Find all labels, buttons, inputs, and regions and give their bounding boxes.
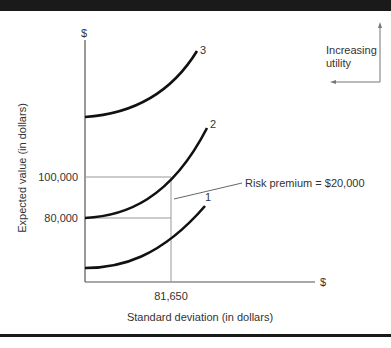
bottom-frame-line [0,334,391,337]
x-axis-unit: $ [320,276,326,288]
increasing-utility-label-line1: Increasing [326,44,377,56]
y-tick-100000: 100,000 [38,171,78,183]
curve-2-label: 2 [210,118,216,130]
up-arrowhead-icon [378,22,382,28]
curve-1-label: 1 [205,191,211,203]
y-tick-80000: 80,000 [44,212,78,224]
increasing-utility-label-line2: utility [326,57,352,69]
curve-3-label: 3 [200,44,206,56]
y-axis-unit: $ [81,27,87,39]
risk-premium-annotation: Risk premium = $20,000 [245,177,365,189]
x-axis-title: Standard deviation (in dollars) [127,311,273,323]
x-tick-81650: 81,650 [154,290,188,302]
indifference-curve-3 [85,51,197,117]
indifference-curve-diagram: $ $ 100,000 80,000 81,650 Standard devia… [0,0,391,348]
left-arrowhead-icon [330,80,336,84]
indifference-curve-2 [85,128,207,218]
y-axis-title: Expected value (in dollars) [16,103,28,233]
